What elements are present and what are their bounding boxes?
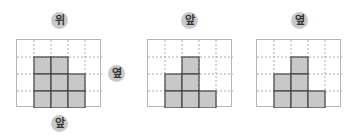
front-direction-badge: 앞 (51, 115, 68, 132)
top-label-badge: 위 (51, 12, 68, 29)
front-view-grid (147, 39, 232, 107)
side-label-badge: 옆 (291, 12, 308, 29)
side-view-grid (256, 39, 341, 107)
front-label-badge: 앞 (181, 12, 198, 29)
top-view-grid (16, 39, 101, 107)
side-direction-badge: 옆 (108, 65, 125, 82)
